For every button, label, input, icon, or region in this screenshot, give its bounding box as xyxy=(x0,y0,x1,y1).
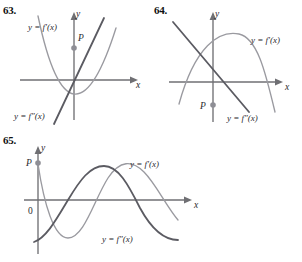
figure-page: 63. y x P y = f′(x) y = f″(x) xyxy=(0,0,302,262)
point-p-label-64: P xyxy=(199,101,206,111)
x-axis-arrow-64 xyxy=(275,79,283,86)
problem-number-65: 65. xyxy=(3,134,16,146)
graph-64: y x P y = f′(x) y = f″(x) xyxy=(165,8,299,128)
point-p-label-65: P xyxy=(25,158,32,168)
x-axis-label-65: x xyxy=(193,200,199,210)
point-p-label-63: P xyxy=(77,33,84,43)
x-axis-arrow-65 xyxy=(184,197,192,204)
curve-label-f-double-prime-63: y = f″(x) xyxy=(13,111,45,121)
exercise-panel-65: 65. y x P 0 y = f′(x) y = f xyxy=(0,128,232,262)
x-axis-label-63: x xyxy=(135,80,141,90)
curve-label-f-double-prime-64: y = f″(x) xyxy=(226,113,258,123)
curve-label-f-prime-63: y = f′(x) xyxy=(27,22,57,32)
y-axis-label-63: y xyxy=(75,9,81,19)
curve-f-double-prime-65 xyxy=(34,166,178,242)
origin-label-65: 0 xyxy=(28,206,33,216)
curve-label-f-double-prime-65: y = f″(x) xyxy=(101,234,133,244)
y-axis-label-64: y xyxy=(214,9,220,19)
y-axis-label-65: y xyxy=(40,143,46,153)
exercise-panel-63: 63. y x P y = f′(x) y = f″(x) xyxy=(0,0,151,131)
x-axis-label-64: x xyxy=(284,82,290,92)
exercise-panel-64: 64. y x P y = f′(x) y = f″(x) xyxy=(151,0,302,131)
curve-f-prime-65 xyxy=(38,164,178,238)
point-p-marker-63 xyxy=(71,45,77,51)
problem-number-63: 63. xyxy=(3,4,16,16)
graph-63: y x P y = f′(x) y = f″(x) xyxy=(18,8,146,128)
curve-f-double-prime-64 xyxy=(173,22,249,112)
graph-65: y x P 0 y = f′(x) y = f″(x) xyxy=(20,142,220,260)
curve-label-f-prime-64: y = f′(x) xyxy=(250,35,280,45)
curve-label-f-prime-65: y = f′(x) xyxy=(129,159,159,169)
point-p-marker-64 xyxy=(210,102,216,108)
point-p-marker-65 xyxy=(35,160,41,166)
